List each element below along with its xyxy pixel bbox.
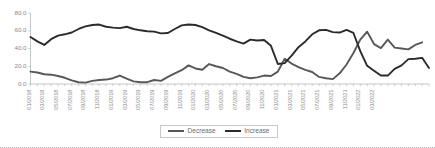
y-tick-label: 20.0 <box>14 62 27 69</box>
x-tick-label: 07/2021 <box>314 90 320 110</box>
x-tick-label: 09/2020 <box>245 89 251 109</box>
y-tick-label: 80.0 <box>14 9 27 16</box>
x-tick-label: 11/2019 <box>177 90 183 110</box>
x-tick-label: 05/2018 <box>53 90 59 110</box>
x-tick-label: 01/2018 <box>26 90 32 110</box>
y-tick-label: 40.0 <box>14 44 27 51</box>
chart-legend: DecreaseIncrease <box>160 125 278 138</box>
x-tick-label: 01/2019 <box>108 90 114 110</box>
x-tick-label: 11/2020 <box>259 90 265 110</box>
legend-item-increase[interactable]: Increase <box>225 128 270 135</box>
x-tick-label: 03/2018 <box>39 90 45 110</box>
x-tick-label: 03/2020 <box>204 90 210 110</box>
x-tick-label: 01/2020 <box>190 90 196 110</box>
legend-swatch-decrease <box>168 130 184 133</box>
x-tick-label: 05/2020 <box>218 90 224 110</box>
x-tick-label: 01/2022 <box>355 90 361 110</box>
legend-label: Increase <box>244 128 269 135</box>
x-tick-label: 11/2018 <box>94 90 100 110</box>
x-tick-label: 03/2022 <box>369 90 375 110</box>
x-tick-label: 07/2020 <box>232 90 238 110</box>
x-tick-label: 03/2021 <box>287 90 293 110</box>
x-tick-label: 07/2019 <box>149 90 155 110</box>
x-tick-label: 09/2019 <box>163 90 169 110</box>
series-line-increase <box>31 25 430 76</box>
legend-swatch-increase <box>225 130 241 133</box>
legend-item-decrease[interactable]: Decrease <box>168 128 216 135</box>
x-tick-label: 07/2018 <box>67 90 73 110</box>
y-tick-label: 60.0 <box>14 26 27 33</box>
x-tick-label: 09/2018 <box>80 90 86 110</box>
x-tick-label: 01/2021 <box>273 90 279 110</box>
x-tick-label: 05/2021 <box>300 90 306 110</box>
x-tick-label: 09/2021 <box>328 90 334 110</box>
legend-label: Decrease <box>188 128 216 135</box>
y-tick-label: 0.0 <box>18 80 27 87</box>
chart-figure: 0.020.040.060.080.001/201803/201805/2018… <box>0 0 435 148</box>
x-tick-label: 11/2021 <box>342 90 348 110</box>
x-tick-label: 05/2019 <box>135 90 141 110</box>
x-tick-label: 03/2019 <box>122 90 128 110</box>
